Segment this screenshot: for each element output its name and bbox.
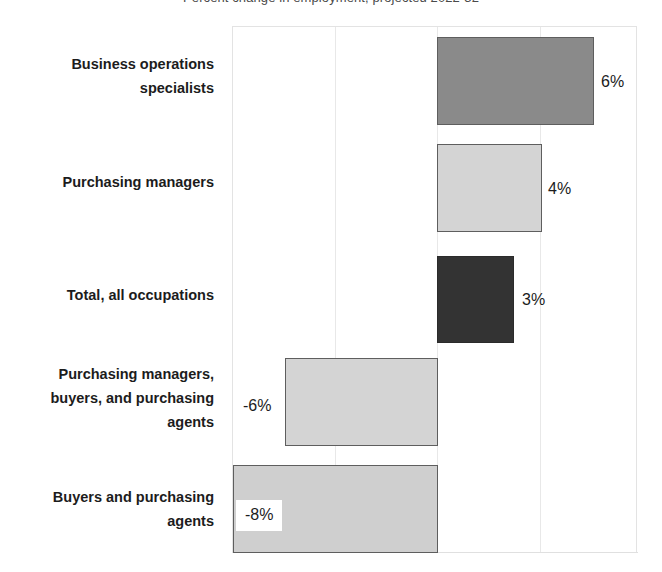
bar-chart: Percent change in employment, projected … xyxy=(0,0,662,572)
bar-total-all-occupations xyxy=(437,256,514,343)
value-label-total-all-occupations: 3% xyxy=(522,292,545,308)
category-label-purchasing-managers: Purchasing managers xyxy=(0,170,214,194)
category-label-total-all-occupations: Total, all occupations xyxy=(0,283,214,307)
chart-title: Percent change in employment, projected … xyxy=(0,0,662,5)
category-label-purchasing-managers-buyers-agents: Purchasing managers, buyers, and purchas… xyxy=(0,362,214,434)
bar-purchasing-managers-buyers-agents xyxy=(285,358,438,446)
bar-business-operations-specialists xyxy=(437,37,594,125)
value-label-business-operations-specialists: 6% xyxy=(601,74,624,90)
category-label-buyers-and-purchasing-agents: Buyers and purchasing agents xyxy=(0,485,214,533)
category-label-business-operations-specialists: Business operations specialists xyxy=(0,52,214,100)
value-label-buyers-and-purchasing-agents: -8% xyxy=(236,500,282,531)
value-label-purchasing-managers-buyers-agents: -6% xyxy=(243,398,271,414)
value-label-purchasing-managers: 4% xyxy=(548,181,571,197)
bar-purchasing-managers xyxy=(437,144,542,232)
